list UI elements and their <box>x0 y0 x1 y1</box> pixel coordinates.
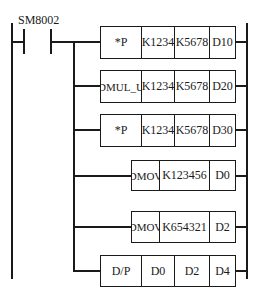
instruction-block-4[interactable]: DMOV K123456 D0 <box>131 160 236 191</box>
operand-2: K5678 <box>175 27 210 58</box>
rung-3-input-wire <box>73 129 101 131</box>
instruction-block-3[interactable]: *P K1234 K5678 D30 <box>100 114 236 147</box>
operand-2: K5678 <box>175 71 210 102</box>
operand-3: D20 <box>210 71 235 102</box>
instruction-op: DMOV <box>132 212 160 242</box>
instruction-op: *P <box>101 27 142 58</box>
rung-1-input-wire <box>73 41 101 43</box>
operand-1: K654321 <box>160 212 210 242</box>
operand-1: K1234 <box>142 27 175 58</box>
rung-5-input-wire <box>73 226 132 228</box>
instruction-op: *P <box>101 115 142 146</box>
operand-3: D30 <box>210 115 235 146</box>
instruction-op: DMUL_U <box>101 71 142 102</box>
contact-label: SM8002 <box>18 14 59 26</box>
operand-2: K5678 <box>175 115 210 146</box>
rung-6-input-wire <box>73 270 101 272</box>
operand-2: D2 <box>210 212 235 242</box>
instruction-block-1[interactable]: *P K1234 K5678 D10 <box>100 26 236 59</box>
branch-bus <box>73 41 75 271</box>
instruction-op: DMOV <box>132 161 160 190</box>
operand-1: K1234 <box>142 115 175 146</box>
rung-3-output-wire <box>235 129 247 131</box>
instruction-block-5[interactable]: DMOV K654321 D2 <box>131 211 236 243</box>
rung-2-input-wire <box>73 85 101 87</box>
rung-1-output-wire <box>235 41 247 43</box>
contact-left-plate <box>23 29 25 54</box>
operand-1: K123456 <box>160 161 210 190</box>
rung-4-input-wire <box>73 175 132 177</box>
operand-2: D2 <box>175 256 210 286</box>
operand-1: K1234 <box>142 71 175 102</box>
contact-to-branch-wire <box>51 41 74 43</box>
rung-6-output-wire <box>235 270 247 272</box>
right-power-rail <box>246 23 248 279</box>
operand-3: D10 <box>210 27 235 58</box>
instruction-block-6[interactable]: D/P D0 D2 D4 <box>100 255 236 287</box>
rung-5-output-wire <box>235 226 247 228</box>
instruction-block-2[interactable]: DMUL_U K1234 K5678 D20 <box>100 70 236 103</box>
instruction-op: D/P <box>101 256 142 286</box>
rung-4-output-wire <box>235 175 247 177</box>
rung-2-output-wire <box>235 85 247 87</box>
operand-2: D0 <box>210 161 235 190</box>
operand-1: D0 <box>142 256 175 286</box>
operand-3: D4 <box>210 256 235 286</box>
left-power-rail <box>11 23 13 279</box>
